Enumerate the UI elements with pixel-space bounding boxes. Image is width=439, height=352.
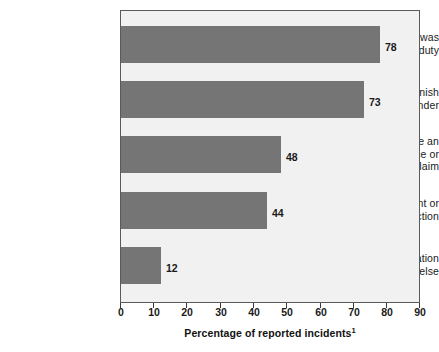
x-tick-label-8: 80: [381, 306, 393, 318]
x-tick-label-3: 30: [215, 306, 227, 318]
x-tick-label-1: 10: [148, 306, 160, 318]
bar-2: [121, 136, 281, 173]
x-axis-title-footnote-marker: 1: [351, 326, 355, 335]
value-label-4: 12: [166, 263, 178, 274]
x-tick-label-9: 90: [414, 306, 426, 318]
bar-3: [121, 192, 267, 229]
x-tick-label-7: 70: [348, 306, 360, 318]
x-tick-label-6: 60: [315, 306, 327, 318]
x-tick-label-4: 40: [248, 306, 260, 318]
x-axis-ticks: [120, 303, 420, 308]
x-tick-label-2: 20: [181, 306, 193, 318]
plot-area: [120, 10, 420, 303]
x-tick-label-5: 50: [281, 306, 293, 318]
x-axis-title-text: Percentage of reported incidents: [184, 327, 351, 339]
bar-chart: Because it was victim's duty To catch an…: [0, 0, 439, 352]
bar-0: [121, 26, 380, 63]
value-label-3: 44: [272, 208, 284, 219]
value-label-2: 48: [286, 152, 298, 163]
value-label-1: 73: [369, 97, 381, 108]
x-axis-title: Percentage of reported incidents1: [120, 327, 420, 339]
value-label-0: 78: [385, 42, 397, 53]
bar-4: [121, 247, 161, 284]
x-tick-label-0: 0: [118, 306, 124, 318]
bar-1: [121, 81, 364, 118]
